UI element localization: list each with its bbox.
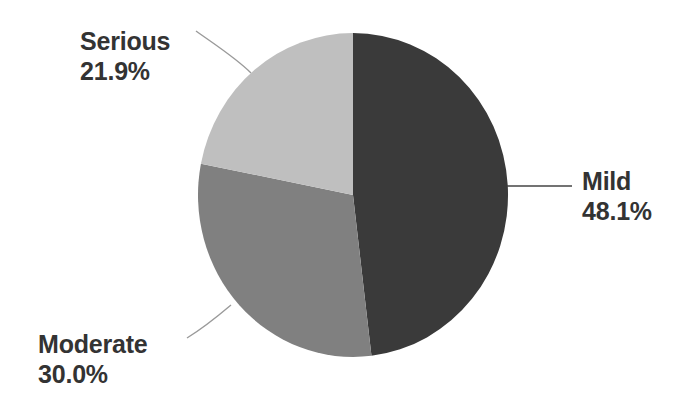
- slice-label-serious: Serious 21.9%: [80, 26, 170, 86]
- slice-label-mild: Mild 48.1%: [582, 166, 652, 226]
- slice-label-moderate-value: 30.0%: [38, 359, 148, 389]
- slice-label-serious-value: 21.9%: [80, 56, 170, 86]
- leader-line-serious: [196, 31, 251, 73]
- slice-label-moderate-name: Moderate: [38, 329, 148, 359]
- leader-line-moderate: [187, 305, 231, 338]
- pie-chart: Serious 21.9% Moderate 30.0% Mild 48.1%: [0, 0, 697, 414]
- slice-label-moderate: Moderate 30.0%: [38, 329, 148, 389]
- slice-label-serious-name: Serious: [80, 26, 170, 56]
- pie-slice-mild[interactable]: [353, 33, 508, 356]
- slice-label-mild-name: Mild: [582, 166, 652, 196]
- slice-label-mild-value: 48.1%: [582, 196, 652, 226]
